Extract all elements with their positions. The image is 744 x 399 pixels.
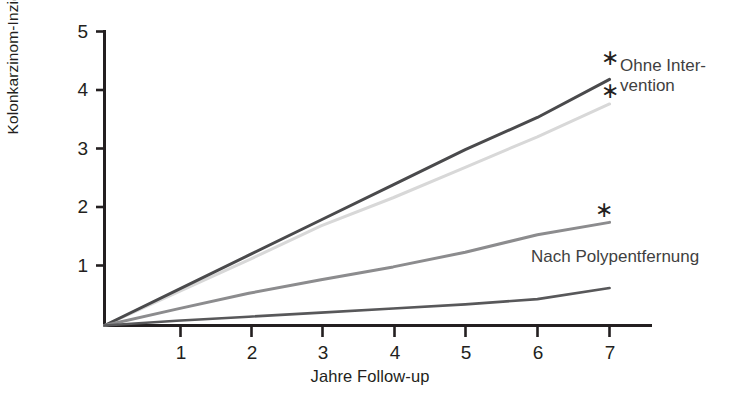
significance-star-icon: ∗ [595, 199, 613, 221]
y-tick-label-4: 4 [68, 80, 88, 99]
y-axis-title: Kolonkarzinom-Inzidenz Prozent der kumul… [3, 0, 59, 100]
chart-series-group [105, 79, 610, 325]
y-tick-label-3: 3 [68, 139, 88, 158]
significance-star-icon: ∗ [601, 80, 619, 102]
series-line-ohne-intervention-lower [105, 104, 610, 326]
y-tick-label-1: 1 [68, 256, 88, 275]
x-tick-label-4: 4 [384, 343, 406, 362]
series-label-line-1: Ohne Inter- [620, 56, 706, 76]
series-label-ohne-intervention: Ohne Inter- vention [620, 56, 706, 96]
y-axis-title-line-2: Kolonkarzinom-Inzidenz [3, 0, 23, 135]
series-line-nach-polypentfernung-lower [105, 288, 610, 326]
chart-figure: Kolonkarzinom-Inzidenz Prozent der kumul… [0, 0, 744, 399]
y-tick-label-2: 2 [68, 197, 88, 216]
x-tick-label-1: 1 [170, 343, 192, 362]
significance-star-icon: ∗ [601, 47, 619, 69]
series-label-line-2: vention [620, 76, 706, 96]
x-tick-label-6: 6 [527, 343, 549, 362]
series-label-nach-polypentfernung: Nach Polypentfernung [531, 247, 699, 267]
y-tick-label-5: 5 [68, 22, 88, 41]
x-tick-label-3: 3 [312, 343, 334, 362]
x-tick-label-7: 7 [599, 343, 621, 362]
x-tick-label-5: 5 [455, 343, 477, 362]
x-axis-title: Jahre Follow-up [260, 367, 480, 386]
series-line-ohne-intervention-upper [105, 79, 610, 325]
x-tick-label-2: 2 [241, 343, 263, 362]
